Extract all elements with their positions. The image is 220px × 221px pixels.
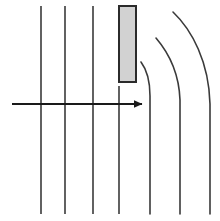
obstacle-plate (119, 6, 136, 82)
figure-background (0, 0, 220, 221)
streamline-figure (0, 0, 220, 221)
figure-canvas (0, 0, 220, 221)
